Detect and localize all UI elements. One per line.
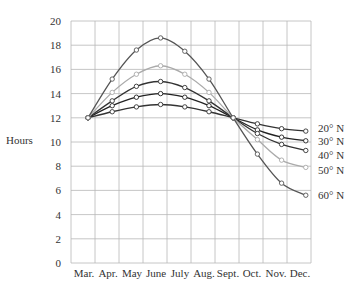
data-point-marker — [255, 122, 259, 126]
data-point-marker — [304, 129, 308, 133]
data-point-marker — [231, 116, 235, 120]
series-line — [88, 66, 306, 168]
data-point-marker — [86, 116, 90, 120]
x-tick-label: Sept. — [217, 267, 240, 279]
y-tick-label: 10 — [50, 136, 62, 148]
x-tick-label: Apr. — [98, 267, 118, 279]
data-point-marker — [158, 79, 162, 83]
y-tick-label: 16 — [50, 63, 62, 75]
y-tick-label: 18 — [50, 39, 62, 51]
data-point-marker — [110, 99, 114, 103]
data-point-marker — [304, 165, 308, 169]
data-point-marker — [279, 181, 283, 185]
data-point-marker — [207, 104, 211, 108]
y-tick-label: 8 — [56, 160, 62, 172]
x-tick-label: Oct. — [243, 267, 262, 279]
x-tick-label: June — [146, 267, 166, 279]
data-point-marker — [110, 110, 114, 114]
y-tick-label: 14 — [50, 88, 62, 100]
data-point-marker — [304, 148, 308, 152]
data-point-marker — [207, 90, 211, 94]
data-point-marker — [304, 193, 308, 197]
x-axis-ticks: Mar.Apr.MayJuneJulyAug.Sept.Oct.Nov.Dec. — [74, 267, 311, 279]
x-tick-label: July — [171, 267, 190, 279]
x-tick-label: Aug. — [193, 267, 215, 279]
data-point-marker — [183, 105, 187, 109]
data-point-marker — [255, 152, 259, 156]
data-point-marker — [158, 64, 162, 68]
data-point-marker — [183, 85, 187, 89]
data-point-marker — [183, 95, 187, 99]
data-point-marker — [279, 158, 283, 162]
series-label: 50° N — [318, 164, 344, 176]
data-point-marker — [207, 110, 211, 114]
data-point-marker — [158, 102, 162, 106]
data-point-marker — [110, 77, 114, 81]
series-label: 40° N — [318, 149, 344, 161]
data-point-marker — [183, 72, 187, 76]
series-label: 20° N — [318, 122, 344, 134]
series-label: 30° N — [318, 135, 344, 147]
y-tick-label: 20 — [50, 15, 62, 27]
data-point-marker — [207, 99, 211, 103]
data-point-marker — [279, 135, 283, 139]
x-tick-label: May — [122, 267, 143, 279]
data-point-marker — [134, 72, 138, 76]
y-tick-label: 12 — [50, 112, 61, 124]
data-point-marker — [279, 142, 283, 146]
data-point-marker — [134, 48, 138, 52]
data-point-marker — [134, 95, 138, 99]
x-tick-label: Dec. — [290, 267, 311, 279]
data-point-marker — [158, 36, 162, 40]
series-line — [88, 94, 306, 141]
data-point-marker — [255, 137, 259, 141]
data-point-marker — [110, 104, 114, 108]
series-line — [88, 81, 306, 150]
x-tick-label: Nov. — [266, 267, 287, 279]
data-point-marker — [134, 105, 138, 109]
daylight-hours-chart: 02468101214161820 Mar.Apr.MayJuneJulyAug… — [0, 0, 362, 290]
series-labels: 20° N30° N40° N50° N60° N — [318, 122, 344, 201]
data-point-marker — [158, 91, 162, 95]
x-tick-label: Mar. — [74, 267, 95, 279]
y-tick-label: 6 — [56, 184, 62, 196]
data-point-marker — [183, 49, 187, 53]
data-point-marker — [279, 126, 283, 130]
y-tick-label: 0 — [56, 257, 62, 269]
data-point-marker — [134, 84, 138, 88]
series-line — [88, 38, 306, 195]
y-axis-label: Hours — [6, 134, 33, 146]
y-tick-label: 4 — [56, 209, 62, 221]
data-point-marker — [255, 131, 259, 135]
data-point-marker — [304, 139, 308, 143]
y-tick-label: 2 — [56, 233, 62, 245]
data-point-marker — [207, 77, 211, 81]
data-point-marker — [110, 90, 114, 94]
y-axis-ticks: 02468101214161820 — [50, 15, 62, 269]
series-label: 60° N — [318, 189, 344, 201]
